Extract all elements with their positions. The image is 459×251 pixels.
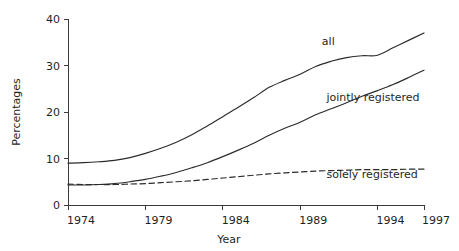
series-label-jointly-registered: jointly registered [325,91,419,104]
series-annotations: alljointly registeredsolely registered [322,35,420,182]
line-chart: 010203040 197419791984198919941997 alljo… [0,0,459,251]
y-axis-ticks [64,19,68,205]
x-axis-ticks [68,205,424,210]
y-tick-label: 30 [46,60,60,73]
y-tick-label: 20 [46,106,60,119]
x-tick-label: 1997 [422,214,450,227]
series-label-solely-registered: solely registered [326,168,417,181]
x-tick-label: 1984 [222,214,250,227]
x-tick-label: 1979 [144,214,172,227]
chart-canvas: 010203040 197419791984198919941997 alljo… [0,0,459,251]
y-tick-label: 10 [46,153,60,166]
y-tick-label: 40 [46,13,60,26]
x-axis-title: Year [216,233,241,246]
series-label-all: all [322,35,335,48]
x-tick-label: 1994 [377,214,405,227]
series-lines [68,33,424,185]
x-tick-label: 1974 [67,214,95,227]
x-tick-label: 1989 [299,214,327,227]
y-axis-tick-labels: 010203040 [46,13,60,212]
y-axis-title: Percentages [10,78,23,146]
x-axis-tick-labels: 197419791984198919941997 [67,214,450,227]
y-tick-label: 0 [53,199,60,212]
